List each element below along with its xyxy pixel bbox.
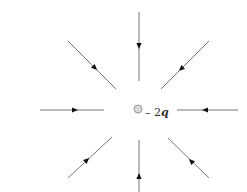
field-line-top [136,12,141,81]
field-line-lower-right [168,138,209,178]
field-line-diagram [0,0,247,192]
field-line-stroke [68,137,112,178]
field-line-stroke [68,41,116,89]
field-line-lower-left [68,137,112,178]
field-line-left [40,107,104,112]
field-line-upper-left [68,41,116,89]
point-charge-icon [134,105,142,113]
field-line-right [177,107,238,112]
arrowhead-icon [136,173,141,179]
field-line-bottom [136,140,141,192]
field-line-stroke [168,138,209,178]
charge-label-sign: – 2 [145,106,161,119]
charge-label: – 2q [145,106,169,119]
arrowhead-icon [72,107,78,112]
field-line-upper-right [161,41,209,89]
arrowhead-icon [136,43,141,49]
field-line-stroke [161,41,209,89]
arrowhead-icon [202,107,208,112]
charge-label-variable: q [161,106,169,119]
